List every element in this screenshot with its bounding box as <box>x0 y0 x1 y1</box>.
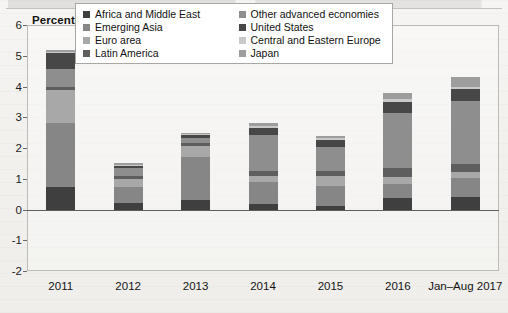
y-axis-tick-label: -2 <box>12 265 22 277</box>
bar-segment <box>46 69 75 87</box>
legend-item-label: Central and Eastern Europe <box>251 34 381 46</box>
bar-segment <box>316 176 345 186</box>
bar-segment <box>383 184 412 198</box>
y-axis-tick <box>23 25 27 26</box>
x-axis-tick-label: 2011 <box>48 280 73 292</box>
bar-segment <box>46 187 75 209</box>
y-axis-tick <box>23 179 27 180</box>
stacked-bar <box>46 50 75 210</box>
x-axis-tick-label: 2013 <box>183 280 209 292</box>
y-axis-tick-label: 4 <box>16 81 22 93</box>
bar-segment <box>451 101 480 164</box>
bar-segment <box>383 177 412 184</box>
y-axis-tick-label: -1 <box>12 234 22 246</box>
bar-segment <box>46 90 75 123</box>
legend-item-label: Emerging Asia <box>95 21 163 33</box>
legend-item-label: Euro area <box>95 34 141 46</box>
y-axis-tick-label: 0 <box>16 204 22 216</box>
legend-item: Emerging Asia <box>83 21 231 33</box>
y-axis-tick-label: 6 <box>16 19 22 31</box>
x-axis-tick-label: 2015 <box>318 280 344 292</box>
legend-item-label: Other advanced economies <box>251 8 379 20</box>
y-axis-tick-label: 2 <box>16 142 22 154</box>
legend-item: Euro area <box>83 34 231 46</box>
stacked-bar <box>181 133 210 210</box>
bar-segment <box>181 200 210 209</box>
chart-legend: Africa and Middle EastEmerging AsiaEuro … <box>75 3 393 64</box>
y-axis-tick <box>23 56 27 57</box>
bar-segment <box>316 186 345 206</box>
bar-segment <box>383 168 412 177</box>
legend-swatch-icon <box>239 50 246 57</box>
x-axis-tick-label: Jan–Aug 2017 <box>428 280 502 292</box>
stacked-bar <box>316 136 345 210</box>
legend-swatch-icon <box>83 11 90 18</box>
x-axis-tick-label: 2012 <box>115 280 141 292</box>
bar-segment <box>383 113 412 168</box>
legend-item-label: Latin America <box>95 47 159 59</box>
legend-item: Central and Eastern Europe <box>239 34 387 46</box>
bar-segment <box>249 204 278 209</box>
y-axis-tick-label: 1 <box>16 173 22 185</box>
legend-item: Latin America <box>83 47 231 59</box>
bar-segment <box>249 182 278 204</box>
bar-segment <box>316 147 345 172</box>
bar-segment <box>316 140 345 147</box>
stacked-bar <box>249 123 278 209</box>
legend-item-label: Japan <box>251 47 280 59</box>
legend-swatch-icon <box>239 24 246 31</box>
stacked-bar <box>383 93 412 210</box>
bar-segment <box>114 187 143 203</box>
x-axis-tick-label: 2016 <box>385 280 411 292</box>
zero-baseline <box>27 210 499 211</box>
bar-segment <box>451 178 480 196</box>
y-axis-tick <box>23 87 27 88</box>
bar-segment <box>383 198 412 209</box>
bar-segment <box>114 168 143 175</box>
stacked-bar <box>451 77 480 210</box>
legend-item: Other advanced economies <box>239 8 387 20</box>
legend-swatch-icon <box>83 24 90 31</box>
bar-segment <box>451 164 480 172</box>
y-axis-tick <box>23 117 27 118</box>
y-axis-tick <box>23 271 27 272</box>
stacked-bar <box>114 163 143 209</box>
bar-segment <box>114 179 143 187</box>
bar-segment <box>451 89 480 101</box>
legend-swatch-icon <box>239 37 246 44</box>
bar-segment <box>46 53 75 69</box>
bar-segment <box>249 135 278 171</box>
bar-segment <box>383 102 412 113</box>
bar-segment <box>181 146 210 158</box>
legend-item-label: United States <box>251 21 314 33</box>
legend-item: Africa and Middle East <box>83 8 231 20</box>
legend-item: United States <box>239 21 387 33</box>
bar-segment <box>249 128 278 135</box>
y-axis-tick-label: 3 <box>16 111 22 123</box>
bar-segment <box>451 197 480 210</box>
bar-segment <box>114 203 143 210</box>
bar-segment <box>451 77 480 87</box>
legend-item-label: Africa and Middle East <box>95 8 200 20</box>
y-axis-tick <box>23 148 27 149</box>
bar-segment <box>181 157 210 200</box>
y-axis-tick-label: 5 <box>16 50 22 62</box>
bar-segment <box>46 123 75 187</box>
legend-swatch-icon <box>239 11 246 18</box>
y-axis-tick <box>23 240 27 241</box>
legend-swatch-icon <box>83 50 90 57</box>
legend-swatch-icon <box>83 37 90 44</box>
legend-item: Japan <box>239 47 387 59</box>
bar-segment <box>316 206 345 210</box>
x-axis-tick-label: 2014 <box>250 280 276 292</box>
